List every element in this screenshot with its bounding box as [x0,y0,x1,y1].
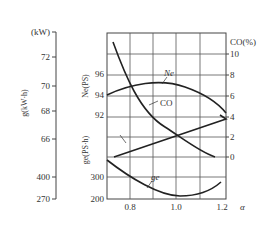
tick-label: 66 [41,134,51,144]
tick-label: 1.2 [216,202,227,212]
plot-grid [107,33,226,199]
tick-label: 4 [230,112,235,122]
tick-label: 8 [230,70,235,80]
tick-label: 300 [91,172,105,182]
left-outer-axis: (kW) 72 70 68 66 400 270 g(kW·h) [20,27,56,204]
ge-axis-label: ge(PS·h) [81,135,90,164]
tick-label: 70 [41,81,51,91]
tick-label: 400 [37,172,51,182]
tick-label: 94 [95,90,105,100]
tick-label: 0 [230,152,235,162]
tick-label: 200 [91,194,105,204]
left-outer-axis-label: g(kW·h) [20,89,29,117]
series-ge [107,160,221,196]
left-inner-axes: 96 94 92 Ne(PS) 300 200 ge(PS·h) [81,69,105,204]
chart: (kW) 72 70 68 66 400 270 g(kW·h) 96 94 9… [0,0,274,229]
tick-label: 10 [230,49,240,59]
right-axis-co: CO(%) 10 8 6 4 2 0 [226,37,256,162]
tick-label: 6 [230,91,235,101]
co-axis-label: CO(%) [230,37,256,47]
x-axis: 0.8 1.0 1.2 α [124,202,245,212]
tick-label: 72 [41,52,50,62]
x-axis-label: α [240,202,245,212]
tick-label: 270 [37,194,51,204]
tick-label: 2 [230,132,235,142]
annotation-co: CO [160,98,173,108]
tick-label: 1.0 [170,202,182,212]
left-outer-unit: (kW) [31,27,50,37]
annotation-ne: Ne [163,68,174,78]
annotation-ge: ge [151,172,160,182]
tick-label: 92 [95,110,104,120]
tick-label: 96 [95,69,105,79]
curves [107,42,226,196]
ne-axis-label: Ne(PS) [81,74,90,98]
tick-label: 68 [41,106,51,116]
series-rising [114,115,226,157]
tick-label: 0.8 [124,202,136,212]
